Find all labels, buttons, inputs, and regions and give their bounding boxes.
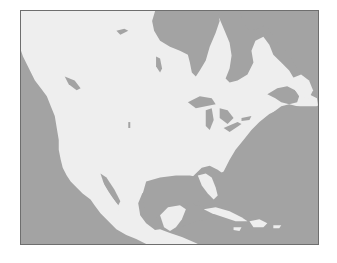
lake-winnipeg <box>128 122 130 128</box>
map-frame <box>20 10 319 245</box>
north-america-map <box>21 11 318 244</box>
